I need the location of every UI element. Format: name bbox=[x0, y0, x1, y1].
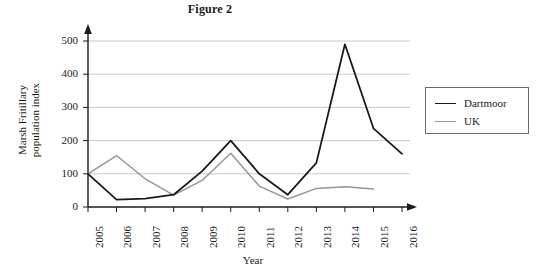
legend-item-uk: UK bbox=[435, 113, 480, 129]
x-axis-tick-label: 2011 bbox=[264, 226, 276, 248]
x-axis-tick-label: 2009 bbox=[207, 226, 219, 248]
legend: Dartmoor UK bbox=[425, 87, 529, 134]
data-series-group bbox=[88, 44, 402, 199]
x-axis-ticks bbox=[88, 207, 402, 212]
legend-label-uk: UK bbox=[464, 116, 480, 127]
x-axis-tick-label: 2007 bbox=[150, 226, 162, 248]
gridlines-group bbox=[88, 41, 410, 174]
x-axis-tick-label: 2012 bbox=[292, 226, 304, 248]
y-axis-tick-label: 200 bbox=[48, 134, 78, 146]
x-axis-label: Year bbox=[88, 254, 418, 266]
y-axis-tick-label: 500 bbox=[48, 34, 78, 46]
x-axis-tick-label: 2013 bbox=[321, 226, 333, 248]
legend-item-dartmoor: Dartmoor bbox=[435, 95, 507, 111]
x-axis-tick-label: 2016 bbox=[407, 226, 419, 248]
x-axis-arrow-icon bbox=[407, 203, 417, 211]
y-axis-tick-label: 100 bbox=[48, 167, 78, 179]
y-axis-arrow-icon bbox=[84, 24, 92, 34]
x-axis-tick-label: 2008 bbox=[178, 226, 190, 248]
y-axis-tick-label: 300 bbox=[48, 100, 78, 112]
x-axis-tick-label: 2010 bbox=[235, 226, 247, 248]
legend-swatch-dartmoor bbox=[435, 103, 456, 104]
legend-swatch-uk bbox=[435, 121, 456, 122]
x-axis-tick-label: 2014 bbox=[349, 226, 361, 248]
series-line-dartmoor bbox=[88, 44, 402, 199]
y-axis-tick-label: 0 bbox=[48, 200, 78, 212]
series-line-uk bbox=[88, 153, 373, 199]
x-axis-tick-label: 2005 bbox=[93, 226, 105, 248]
figure-container: Figure 2 Marsh Fritillary population ind… bbox=[0, 0, 536, 276]
y-axis-ticks bbox=[83, 41, 88, 207]
axis-group bbox=[84, 24, 417, 211]
y-axis-tick-label: 400 bbox=[48, 67, 78, 79]
x-axis-tick-label: 2015 bbox=[378, 226, 390, 248]
legend-label-dartmoor: Dartmoor bbox=[464, 98, 507, 109]
x-axis-tick-label: 2006 bbox=[121, 226, 133, 248]
